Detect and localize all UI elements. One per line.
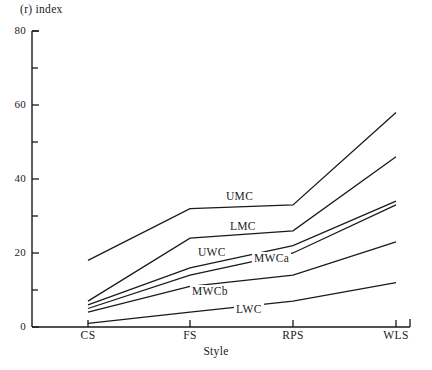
x-tick-label: RPS [263, 329, 323, 341]
x-tick-label: WLS [366, 329, 426, 341]
series-label-lwc: LWC [234, 303, 264, 315]
series-line-umc [88, 112, 396, 260]
y-tick-label: 80 [0, 24, 26, 36]
x-axis-ticks [88, 320, 396, 327]
series-label-mwcb: MWCb [190, 285, 230, 297]
y-axis-ticks [32, 31, 39, 327]
y-tick-label: 40 [0, 172, 26, 184]
x-axis-title: Style [0, 345, 432, 357]
series-label-mwca: MWCa [252, 252, 291, 264]
x-tick-label: FS [160, 329, 220, 341]
data-series-group [88, 112, 396, 323]
y-tick-label: 20 [0, 246, 26, 258]
y-tick-label: 60 [0, 98, 26, 110]
series-line-mwcb [88, 242, 396, 312]
series-label-lmc: LMC [228, 220, 258, 232]
chart-canvas [0, 0, 432, 370]
y-tick-label: 0 [0, 320, 26, 332]
series-label-umc: UMC [224, 190, 255, 202]
x-tick-label: CS [58, 329, 118, 341]
chart-figure: (r) index 020406080 CSFSRPSWLS UMCLMCUWC… [0, 0, 432, 370]
series-label-uwc: UWC [196, 246, 228, 258]
series-line-uwc [88, 201, 396, 305]
